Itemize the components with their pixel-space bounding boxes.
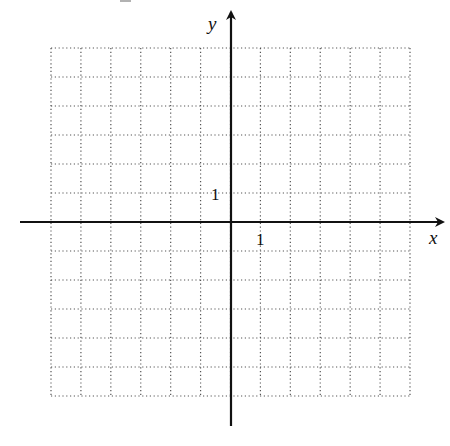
y-tick-label: 1	[211, 185, 220, 204]
x-tick-label: 1	[256, 230, 265, 249]
y-axis-label: y	[206, 13, 217, 34]
x-axis-label: x	[428, 227, 438, 248]
coordinate-plane: x y 1 1	[0, 0, 450, 446]
